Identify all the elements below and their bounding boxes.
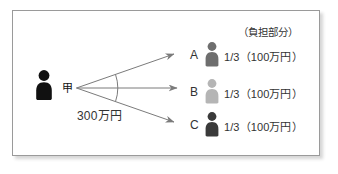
share-column-header: （負担部分） [238,27,298,38]
creditor-a-letter: A [190,48,198,62]
creditor-b-share: 1/3（100万円） [224,85,303,101]
screenshot-root: 甲 300万円 （負担部分） A 1/3（100万円） B 1/3（100万円）… [0,0,338,174]
creditor-a-share: 1/3（100万円） [224,48,303,64]
creditor-c-share: 1/3（100万円） [224,118,303,134]
creditor-c-letter: C [190,118,199,132]
debtor-label: 甲 [62,83,73,94]
creditor-b-letter: B [190,85,198,99]
total-amount-label: 300万円 [77,110,122,122]
